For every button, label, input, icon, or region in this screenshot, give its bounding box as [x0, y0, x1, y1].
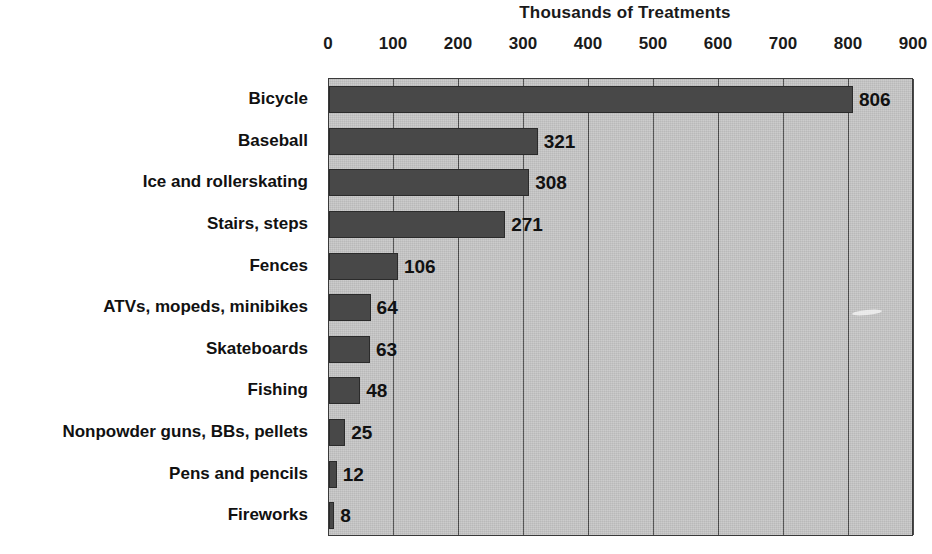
bar-value-label: 25 — [351, 419, 372, 446]
category-label: Baseball — [238, 120, 308, 162]
bar-row: 8 — [329, 495, 912, 537]
category-axis-labels: BicycleBaseballIce and rollerskatingStai… — [0, 78, 318, 536]
x-axis-tick-labels: 0100200300400500600700800900 — [0, 34, 932, 58]
x-tick-label-900: 900 — [899, 34, 927, 54]
bar[interactable] — [329, 336, 370, 363]
bar-value-label: 106 — [404, 253, 436, 280]
category-label: ATVs, mopeds, minibikes — [103, 286, 308, 328]
x-tick-label-400: 400 — [574, 34, 602, 54]
bar-row: 12 — [329, 454, 912, 496]
chart-title: Thousands of Treatments — [325, 3, 925, 23]
category-label: Bicycle — [248, 78, 308, 120]
bar[interactable] — [329, 377, 360, 404]
bar[interactable] — [329, 169, 529, 196]
bar-row: 63 — [329, 329, 912, 371]
bar-row: 48 — [329, 370, 912, 412]
bar[interactable] — [329, 128, 538, 155]
bar-value-label: 308 — [535, 169, 567, 196]
bar-chart: Thousands of Treatments 0100200300400500… — [0, 0, 932, 554]
bar-value-label: 12 — [343, 461, 364, 488]
bar[interactable] — [329, 419, 345, 446]
x-tick-label-0: 0 — [323, 34, 332, 54]
x-tick-label-700: 700 — [769, 34, 797, 54]
bar-value-label: 321 — [544, 128, 576, 155]
category-label: Skateboards — [206, 328, 308, 370]
x-tick-label-100: 100 — [379, 34, 407, 54]
x-tick-label-300: 300 — [509, 34, 537, 54]
bar-value-label: 48 — [366, 377, 387, 404]
bar-row: 308 — [329, 162, 912, 204]
x-tick-label-600: 600 — [704, 34, 732, 54]
category-label: Stairs, steps — [207, 203, 308, 245]
bar[interactable] — [329, 211, 505, 238]
bar-row: 106 — [329, 246, 912, 288]
bar-row: 321 — [329, 121, 912, 163]
category-label: Fences — [249, 245, 308, 287]
bar-row: 64 — [329, 287, 912, 329]
category-label: Ice and rollerskating — [143, 161, 308, 203]
gridline-900 — [913, 79, 914, 535]
bar[interactable] — [329, 294, 371, 321]
x-tick-label-800: 800 — [834, 34, 862, 54]
x-tick-label-500: 500 — [639, 34, 667, 54]
category-label: Nonpowder guns, BBs, pellets — [62, 411, 308, 453]
bar[interactable] — [329, 253, 398, 280]
bar-value-label: 64 — [377, 294, 398, 321]
category-label: Pens and pencils — [169, 453, 308, 495]
x-tick-label-200: 200 — [444, 34, 472, 54]
bar-value-label: 806 — [859, 86, 891, 113]
bar[interactable] — [329, 461, 337, 488]
category-label: Fishing — [248, 369, 308, 411]
bar[interactable] — [329, 86, 853, 113]
plot-area: 80632130827110664634825128 — [328, 78, 913, 536]
bar-row: 806 — [329, 79, 912, 121]
bar[interactable] — [329, 502, 334, 529]
bar-value-label: 271 — [511, 211, 543, 238]
bar-row: 271 — [329, 204, 912, 246]
category-label: Fireworks — [228, 494, 308, 536]
bar-row: 25 — [329, 412, 912, 454]
bar-value-label: 63 — [376, 336, 397, 363]
bar-value-label: 8 — [340, 502, 351, 529]
